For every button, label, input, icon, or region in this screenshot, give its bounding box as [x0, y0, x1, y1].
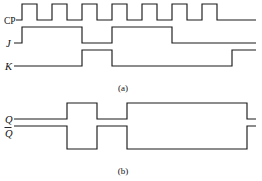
timing-diagram-figure: CP J K (a) Q Q (b)	[0, 0, 262, 181]
waveform-qbar	[14, 126, 256, 149]
timing-diagram-svg: CP J K (a) Q Q (b)	[0, 0, 262, 181]
signal-label-qbar: Q	[5, 128, 13, 139]
waveform-k	[14, 50, 256, 66]
signal-label-q: Q	[5, 114, 13, 125]
signal-label-k: K	[4, 61, 13, 72]
signal-label-cp: CP	[4, 16, 16, 26]
waveform-q	[14, 103, 256, 119]
panel-b: Q Q (b)	[5, 103, 257, 176]
panel-b-caption: (b)	[118, 166, 129, 176]
panel-a: CP J K (a)	[4, 4, 256, 93]
waveform-cp	[16, 4, 256, 20]
panel-a-caption: (a)	[118, 83, 128, 93]
waveform-j	[14, 27, 256, 43]
signal-label-j: J	[6, 38, 12, 49]
